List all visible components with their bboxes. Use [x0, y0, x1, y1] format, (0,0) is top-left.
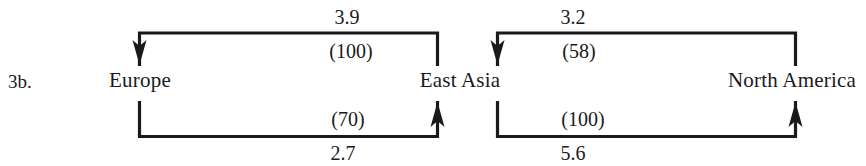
- edge-north-america-to-east-asia: [491, 33, 796, 66]
- edge-europe-to-east-asia: [140, 101, 445, 137]
- node-label-north-america: North America: [728, 70, 856, 91]
- edge-value-europe-to-east-asia: 2.7: [331, 143, 356, 163]
- edge-index-europe-to-east-asia: (70): [331, 109, 364, 129]
- edge-value-north-america-to-east-asia: 3.2: [561, 7, 586, 27]
- edge-index-east-asia-to-europe: (100): [329, 41, 372, 61]
- figure-number: 3b.: [8, 72, 32, 91]
- edge-value-east-asia-to-north-america: 5.6: [561, 143, 586, 163]
- edge-east-asia-to-north-america: [498, 101, 803, 137]
- edge-east-asia-to-europe: [133, 33, 438, 66]
- node-label-east-asia: East Asia: [420, 70, 501, 91]
- edge-index-north-america-to-east-asia: (58): [562, 41, 595, 61]
- edge-index-east-asia-to-north-america: (100): [561, 109, 604, 129]
- node-label-europe: Europe: [109, 70, 171, 91]
- edge-value-east-asia-to-europe: 3.9: [335, 7, 360, 27]
- figure-container: 3b. Europe East Asia North America 3.9 (…: [0, 0, 866, 166]
